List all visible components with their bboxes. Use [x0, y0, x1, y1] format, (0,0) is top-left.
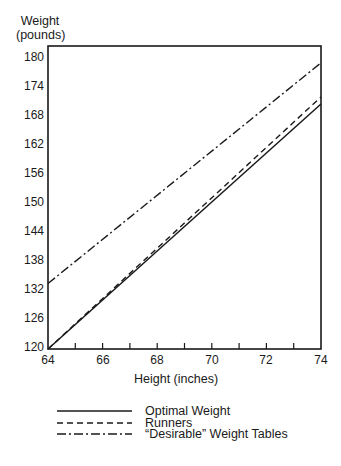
x-axis-title: Height (inches) [134, 372, 218, 386]
y-tick-label: 120 [14, 340, 44, 354]
y-tick-label: 150 [14, 195, 44, 209]
x-tick-label: 72 [254, 353, 278, 367]
series-runners [48, 97, 321, 349]
y-tick-label: 126 [14, 311, 44, 325]
x-tick-label: 68 [145, 353, 169, 367]
x-tick-label: 70 [200, 353, 224, 367]
y-tick-label: 174 [14, 79, 44, 93]
legend-label-desirable-weight-tables: “Desirable” Weight Tables [145, 428, 288, 440]
series-desirable-weight-tables [48, 63, 321, 284]
y-tick-label: 138 [14, 253, 44, 267]
y-tick-label: 144 [14, 224, 44, 238]
plot-frame [48, 46, 321, 349]
y-tick-label: 132 [14, 282, 44, 296]
x-tick-label: 64 [36, 353, 60, 367]
y-tick-label: 168 [14, 108, 44, 122]
y-tick-label: 156 [14, 166, 44, 180]
plot-area [0, 0, 341, 466]
y-tick-label: 180 [14, 50, 44, 64]
x-tick-label: 66 [91, 353, 115, 367]
series-optimal-weight [48, 104, 321, 349]
x-axis-ticks [75, 343, 293, 349]
y-tick-label: 162 [14, 137, 44, 151]
x-tick-label: 74 [309, 353, 333, 367]
